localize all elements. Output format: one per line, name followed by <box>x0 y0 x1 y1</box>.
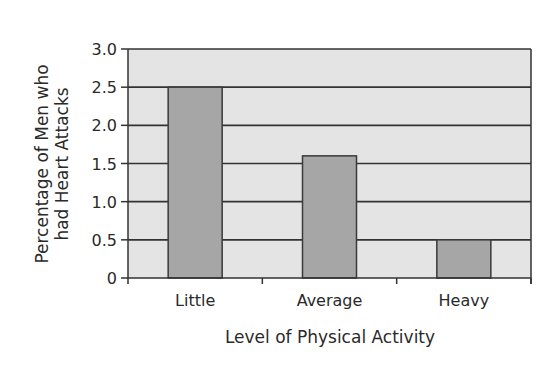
x-tick-label-average: Average <box>297 291 363 310</box>
y-axis-title: Percentage of Men who had Heart Attacks <box>32 64 72 263</box>
y-axis-title-line-2: had Heart Attacks <box>52 87 72 240</box>
y-tick-label: 0.5 <box>92 231 117 250</box>
y-tick-label: 1.0 <box>92 193 117 212</box>
x-tick-label-little: Little <box>175 291 215 310</box>
bar-average <box>303 156 357 278</box>
y-axis-title-line-1: Percentage of Men who <box>32 64 52 263</box>
y-tick-label: 0 <box>107 269 117 288</box>
y-axis-ticks: 00.51.01.52.02.53.0 <box>92 40 128 288</box>
x-axis-ticks: LittleAverageHeavy <box>175 278 531 310</box>
bar-chart: 00.51.01.52.02.53.0 LittleAverageHeavy L… <box>0 0 556 367</box>
x-axis-title: Level of Physical Activity <box>225 327 435 347</box>
y-tick-label: 2.5 <box>92 78 117 97</box>
y-tick-label: 1.5 <box>92 155 117 174</box>
bar-little <box>168 87 222 278</box>
bar-heavy <box>437 240 491 278</box>
y-tick-label: 3.0 <box>92 40 117 59</box>
x-tick-label-heavy: Heavy <box>439 291 490 310</box>
y-tick-label: 2.0 <box>92 116 117 135</box>
